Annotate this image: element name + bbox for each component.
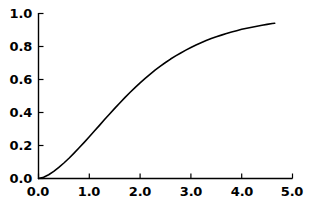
x-tick-label: 0.0 (27, 184, 49, 199)
x-tick-label: 1.0 (78, 184, 100, 199)
x-tick-label: 5.0 (281, 184, 303, 199)
chart-series (39, 23, 275, 178)
x-tick-label: 2.0 (129, 184, 151, 199)
chart-axes (38, 13, 293, 179)
chart-plot-area (0, 0, 313, 214)
y-tick-label: 1.0 (2, 6, 32, 21)
x-tick-label: 3.0 (180, 184, 202, 199)
y-tick-label: 0.6 (2, 72, 32, 87)
chart-line (39, 23, 275, 178)
x-tick-label: 4.0 (231, 184, 253, 199)
y-tick-label: 0.8 (2, 39, 32, 54)
y-tick-label: 0.2 (2, 138, 32, 153)
y-tick-label: 0.4 (2, 105, 32, 120)
chart-ticks (39, 14, 293, 179)
chart-figure: 1.0 0.8 0.6 0.4 0.2 0.0 0.0 1.0 2.0 3.0 … (0, 0, 313, 214)
